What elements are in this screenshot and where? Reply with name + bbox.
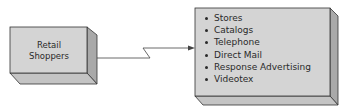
channel-item-response-advertising: Response Advertising (204, 61, 311, 73)
label-line-2: Shoppers (12, 51, 86, 62)
channel-item-direct-mail: Direct Mail (204, 49, 311, 61)
channel-item-stores: Stores (204, 12, 311, 24)
retail-shoppers-label: Retail Shoppers (12, 40, 86, 61)
channel-item-telephone: Telephone (204, 36, 311, 48)
arrowhead-icon (188, 46, 195, 51)
channel-item-catalogs: Catalogs (204, 24, 311, 36)
channel-item-videotex: Videotex (204, 73, 311, 85)
label-line-1: Retail (12, 40, 86, 51)
lightning-connector (97, 46, 195, 59)
channel-list: Stores Catalogs Telephone Direct Mail Re… (204, 12, 311, 85)
